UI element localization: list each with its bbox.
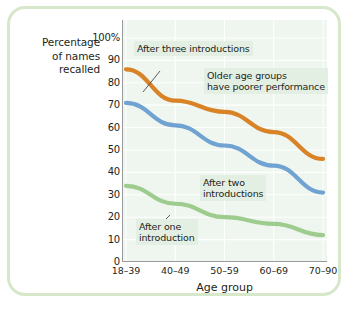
y-tick-label: 90 — [76, 55, 120, 65]
y-tick-label: 50 — [76, 145, 120, 155]
x-tick-label: 70–90 — [309, 265, 337, 276]
y-axis-tick-labels: 0102030405060708090100% — [72, 20, 120, 262]
x-tick-label: 50–59 — [210, 265, 238, 276]
annotation-after-two-introductions: After two introductions — [200, 175, 266, 201]
y-tick-label: 10 — [76, 235, 120, 245]
y-tick-label: 100% — [76, 33, 120, 43]
y-tick-label: 30 — [76, 190, 120, 200]
annotation-older-age-groups: Older age groups have poorer performance — [204, 68, 328, 94]
x-tick-label: 18–39 — [112, 265, 140, 276]
y-tick-label: 20 — [76, 212, 120, 222]
y-tick-label: 70 — [76, 100, 120, 110]
annotation-after-one-introduction: After one introduction — [136, 219, 198, 245]
y-tick-label: 40 — [76, 167, 120, 177]
figure-container: Percentage of names recalled 01020304050… — [0, 0, 355, 311]
y-tick-label: 80 — [76, 78, 120, 88]
x-axis-title: Age group — [122, 281, 327, 294]
annotation-after-three-introductions: After three introductions — [134, 41, 253, 56]
x-axis-tick-labels: 18–3940–4950–5960–6970–90 — [110, 265, 340, 281]
x-tick-label: 40–49 — [161, 265, 189, 276]
x-tick-label: 60–69 — [260, 265, 288, 276]
y-tick-label: 60 — [76, 123, 120, 133]
